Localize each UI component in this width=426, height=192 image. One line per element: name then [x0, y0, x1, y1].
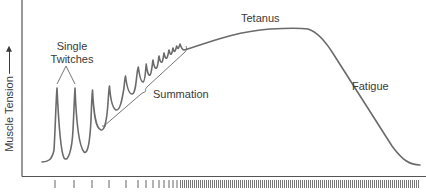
stimulus-ticks	[55, 180, 177, 188]
summation-label: Summation	[153, 88, 209, 101]
single-twitches-label-line1: Single	[45, 40, 99, 53]
tetanus-label: Tetanus	[241, 12, 280, 25]
single-twitches-label-line2: Twitches	[45, 53, 99, 66]
y-axis-label: Muscle Tension	[2, 30, 16, 170]
summation-bracket	[104, 46, 187, 126]
fatigue-label: Fatigue	[352, 80, 389, 93]
y-axis-label-text: Muscle Tension	[3, 76, 15, 152]
muscle-tension-diagram	[0, 0, 426, 192]
stimulus-ticks-continuous	[180, 180, 420, 188]
arrow-up-icon	[9, 48, 10, 74]
single-twitches-pointer	[57, 66, 75, 84]
single-twitches-label: Single Twitches	[45, 40, 99, 66]
